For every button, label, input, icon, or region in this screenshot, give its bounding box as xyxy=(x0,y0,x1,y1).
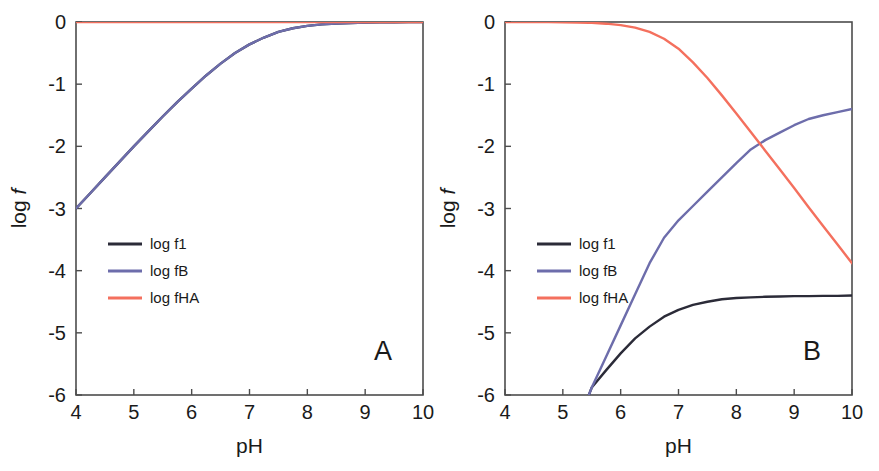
legend-label-fB: log fB xyxy=(579,262,617,279)
x-tick-label: 10 xyxy=(412,401,434,423)
legend-label-fB: log fB xyxy=(150,262,188,279)
y-tick-label: -4 xyxy=(48,260,66,282)
panel-letter-A: A xyxy=(374,336,392,366)
y-axis-title-prefix: log xyxy=(7,194,30,228)
legend-A: log f1log fBlog fHA xyxy=(108,235,199,306)
figure-container: 456789100-1-2-3-4-5-6pHlog fAlog f1log f… xyxy=(0,0,879,471)
y-tick-label: -6 xyxy=(48,384,66,406)
x-axis-title: pH xyxy=(236,434,263,457)
y-axis-title-symbol: f xyxy=(7,186,30,194)
y-tick-label: -3 xyxy=(48,198,66,220)
y-tick-label: -3 xyxy=(477,198,495,220)
x-tick-label: 9 xyxy=(789,401,800,423)
x-tick-label: 6 xyxy=(186,401,197,423)
x-tick-label: 10 xyxy=(841,401,863,423)
x-tick-label: 4 xyxy=(70,401,81,423)
y-tick-label: -2 xyxy=(477,135,495,157)
curve-log-fha xyxy=(505,22,852,263)
y-tick-label: -5 xyxy=(477,322,495,344)
y-tick-label: -1 xyxy=(48,73,66,95)
x-tick-label: 8 xyxy=(731,401,742,423)
panel-letter-B: B xyxy=(803,336,821,366)
figure-svg: 456789100-1-2-3-4-5-6pHlog fAlog f1log f… xyxy=(0,0,879,471)
y-tick-label: 0 xyxy=(55,11,66,33)
x-tick-label: 5 xyxy=(557,401,568,423)
axes-box xyxy=(76,22,423,395)
y-tick-label: -4 xyxy=(477,260,495,282)
x-tick-label: 7 xyxy=(244,401,255,423)
y-tick-label: -6 xyxy=(477,384,495,406)
legend-label-f1: log f1 xyxy=(150,235,187,252)
x-tick-label: 4 xyxy=(499,401,510,423)
y-axis-title: log f xyxy=(7,186,30,228)
y-axis-title: log f xyxy=(436,186,459,228)
x-axis-title: pH xyxy=(665,434,692,457)
curve-log-f1 xyxy=(76,22,423,208)
panel-B: 456789100-1-2-3-4-5-6pHlog fBlog f1log f… xyxy=(436,11,863,457)
curve-log-fb xyxy=(76,22,423,208)
legend-B: log f1log fBlog fHA xyxy=(537,235,628,306)
x-tick-label: 5 xyxy=(128,401,139,423)
panel-A: 456789100-1-2-3-4-5-6pHlog fAlog f1log f… xyxy=(7,11,434,457)
y-axis-title-prefix: log xyxy=(436,194,459,228)
legend-label-fHA: log fHA xyxy=(579,289,628,306)
x-tick-label: 6 xyxy=(615,401,626,423)
x-tick-label: 8 xyxy=(302,401,313,423)
legend-label-fHA: log fHA xyxy=(150,289,199,306)
x-tick-label: 7 xyxy=(673,401,684,423)
y-tick-label: -1 xyxy=(477,73,495,95)
x-tick-label: 9 xyxy=(360,401,371,423)
axes-box xyxy=(505,22,852,395)
y-tick-label: -5 xyxy=(48,322,66,344)
y-tick-label: -2 xyxy=(48,135,66,157)
y-tick-label: 0 xyxy=(484,11,495,33)
y-axis-title-symbol: f xyxy=(436,186,459,194)
legend-label-f1: log f1 xyxy=(579,235,616,252)
